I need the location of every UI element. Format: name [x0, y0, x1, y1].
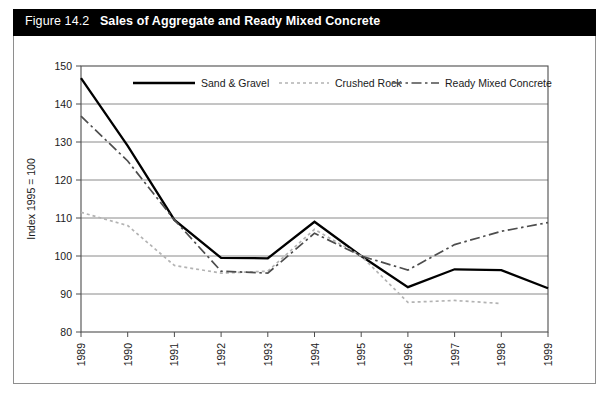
x-axis-tick-label: 1994 — [309, 343, 321, 367]
y-axis-tick-label: 120 — [54, 174, 72, 186]
line-chart: 8090100110120130140150198919901991199219… — [13, 36, 596, 384]
x-axis-tick-label: 1999 — [542, 343, 554, 367]
legend-label: Sand & Gravel — [201, 77, 269, 89]
figure-title-bar: Figure 14.2 Sales of Aggregate and Ready… — [13, 9, 596, 36]
y-axis-tick-label: 80 — [60, 326, 72, 338]
x-axis-tick-label: 1997 — [449, 343, 461, 367]
legend: Sand & GravelCrushed RockReady Mixed Con… — [133, 77, 552, 89]
plot-frame — [81, 66, 548, 332]
x-axis-tick-label: 1996 — [402, 343, 414, 367]
y-axis-tick-label: 130 — [54, 136, 72, 148]
y-axis-tick-label: 150 — [54, 60, 72, 72]
series-line — [81, 116, 548, 273]
y-axis-title: Index 1995 = 100 — [25, 158, 37, 240]
x-axis-tick-label: 1989 — [75, 343, 87, 367]
figure-container: Figure 14.2 Sales of Aggregate and Ready… — [0, 0, 613, 397]
y-axis-tick-label: 140 — [54, 98, 72, 110]
page-title: Figure 14.2 Sales of Aggregate and Ready… — [25, 14, 380, 28]
x-axis-tick-label: 1993 — [262, 343, 274, 367]
series-group — [81, 78, 548, 303]
x-axis: 1989199019911992199319941995199619971998… — [75, 332, 554, 366]
x-axis-tick-label: 1998 — [495, 343, 507, 367]
figure-number: Figure 14.2 — [25, 14, 89, 28]
y-axis-tick-label: 110 — [55, 212, 72, 224]
y-axis-tick-label: 90 — [60, 288, 72, 300]
x-axis-tick-label: 1995 — [355, 343, 367, 367]
legend-label: Ready Mixed Concrete — [445, 77, 552, 89]
series-line — [81, 78, 548, 288]
plot-border — [81, 66, 548, 332]
y-gridlines: 8090100110120130140150 — [54, 60, 548, 338]
x-axis-tick-label: 1990 — [122, 343, 134, 367]
figure-name: Sales of Aggregate and Ready Mixed Concr… — [100, 14, 380, 28]
x-axis-tick-label: 1991 — [168, 343, 180, 367]
series-line — [81, 212, 501, 303]
y-axis-tick-label: 100 — [54, 250, 72, 262]
x-axis-tick-label: 1992 — [215, 343, 227, 367]
chart-area: 8090100110120130140150198919901991199219… — [13, 36, 596, 384]
